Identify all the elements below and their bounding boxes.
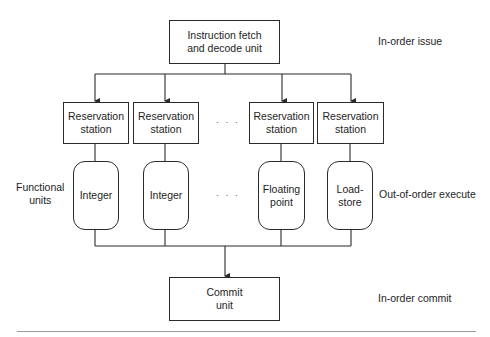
functional-unit-floating-point: Floating point bbox=[258, 161, 305, 230]
reservation-station-4: Reservation station bbox=[317, 102, 384, 144]
reservation-station-3: Reservation station bbox=[249, 102, 314, 144]
functional-units-label: Functional units bbox=[16, 181, 64, 207]
commit-unit-label: Commit unit bbox=[206, 286, 242, 312]
functional-unit-integer-2: Integer bbox=[143, 161, 189, 230]
functional-unit-load-store: Load- store bbox=[327, 161, 373, 230]
reservation-station-label: Reservation station bbox=[68, 110, 124, 136]
out-of-order-execute-label: Out-of-order execute bbox=[379, 188, 476, 201]
functional-unit-label: Integer bbox=[150, 189, 183, 202]
reservation-station-1: Reservation station bbox=[63, 102, 129, 144]
functional-unit-label: Floating point bbox=[263, 183, 300, 209]
reservation-station-label: Reservation station bbox=[138, 110, 194, 136]
instruction-fetch-decode-unit: Instruction fetch and decode unit bbox=[169, 20, 280, 64]
functional-unit-integer-1: Integer bbox=[73, 161, 119, 230]
in-order-issue-label: In-order issue bbox=[378, 35, 442, 48]
reservation-station-2: Reservation station bbox=[133, 102, 199, 144]
bottom-divider bbox=[17, 331, 476, 332]
in-order-commit-label: In-order commit bbox=[378, 292, 452, 305]
functional-unit-label: Load- store bbox=[337, 183, 364, 209]
reservation-station-label: Reservation station bbox=[253, 110, 309, 136]
commit-unit: Commit unit bbox=[169, 277, 280, 321]
reservation-station-label: Reservation station bbox=[322, 110, 378, 136]
fetch-unit-label: Instruction fetch and decode unit bbox=[187, 29, 262, 55]
ellipsis-functional-units: · · · bbox=[216, 190, 240, 200]
functional-unit-label: Integer bbox=[80, 189, 113, 202]
ellipsis-reservation-stations: · · · bbox=[216, 117, 240, 127]
